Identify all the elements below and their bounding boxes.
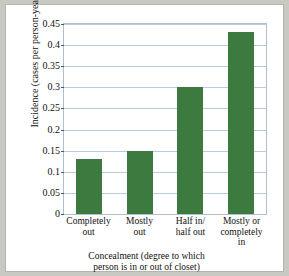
y-axis-tick-label: 0.2 [48, 125, 61, 135]
y-axis-tick-mark [61, 214, 64, 215]
x-axis-category-line: Mostly or [216, 216, 267, 227]
x-axis-category-labels: CompletelyoutMostlyoutHalf in/half outMo… [63, 216, 267, 256]
x-axis-category-line: completely [216, 227, 267, 238]
x-axis-title-line: person is in or out of closet) [20, 262, 273, 273]
plot-wrapper: Incidence (cases per person-year) 00.050… [6, 5, 283, 271]
bar[interactable] [76, 159, 102, 214]
chart-figure: Incidence (cases per person-year) 00.050… [5, 4, 284, 272]
x-axis-title-line: Concealment (degree to which [20, 251, 273, 262]
bar-slot [115, 24, 166, 214]
bar-series [64, 24, 266, 214]
y-axis-tick-label: 0.4 [48, 40, 61, 50]
x-axis-category-label: Completelyout [63, 216, 114, 237]
y-axis-tick-label: 0.3 [48, 82, 61, 92]
x-axis-category-label: Mostly orcompletelyin [216, 216, 267, 248]
bar[interactable] [127, 151, 153, 214]
x-axis-category-line: half out [165, 227, 216, 238]
y-axis-tick-label: 0.15 [43, 146, 61, 156]
bar[interactable] [228, 32, 254, 214]
y-axis-tick-label: 0 [55, 209, 60, 219]
bar[interactable] [177, 87, 203, 214]
y-axis-tick-label: 0.05 [43, 188, 61, 198]
y-axis-tick-label: 0.1 [48, 167, 61, 177]
x-axis-category-line: Completely [63, 216, 114, 227]
plot-area: 00.050.10.150.20.250.30.350.40.45 [63, 23, 267, 215]
y-axis-title: Incidence (cases per person-year) [29, 0, 40, 151]
bar-slot [64, 24, 115, 214]
bar-slot [216, 24, 267, 214]
y-axis-tick-label: 0.25 [43, 103, 61, 113]
y-axis-tick-label: 0.45 [43, 19, 61, 29]
x-axis-category-line: Half in/ [165, 216, 216, 227]
x-axis-category-label: Half in/half out [165, 216, 216, 237]
y-axis-tick-label: 0.35 [43, 61, 61, 71]
x-axis-category-line: out [114, 227, 165, 238]
x-axis-category-label: Mostlyout [114, 216, 165, 237]
x-axis-category-line: Mostly [114, 216, 165, 227]
x-axis-category-line: out [63, 227, 114, 238]
bar-slot [165, 24, 216, 214]
x-axis-title: Concealment (degree to whichperson is in… [20, 251, 273, 273]
x-axis-category-line: in [216, 237, 267, 248]
